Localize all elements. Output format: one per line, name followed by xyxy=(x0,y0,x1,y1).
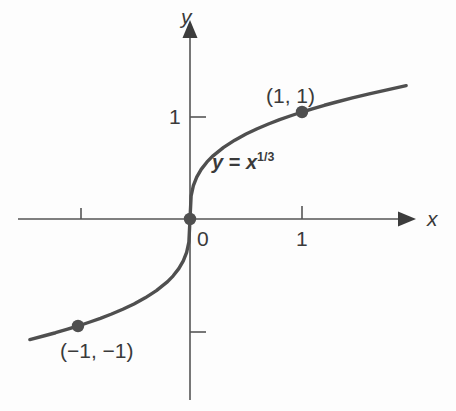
y-tick-label-one: 1 xyxy=(169,106,181,127)
point-label-one-one: (1, 1) xyxy=(266,85,315,106)
x-axis-label: x xyxy=(427,208,438,229)
origin-label-zero: 0 xyxy=(197,228,209,249)
point-label-neg-one-neg-one: (−1, −1) xyxy=(60,340,134,361)
point-marker-one-one xyxy=(296,106,308,118)
x-tick-label-one: 1 xyxy=(296,228,308,249)
equation-label: y = x1/3 xyxy=(212,152,274,172)
equation-lhs: y xyxy=(212,151,223,173)
equation-base: x xyxy=(246,151,257,173)
equation-operator: = xyxy=(229,151,241,173)
point-marker-origin xyxy=(184,213,196,225)
equation-exponent: 1/3 xyxy=(257,150,274,164)
right-arrowhead-icon xyxy=(398,212,416,227)
cube-root-curve xyxy=(30,86,406,340)
point-marker-neg-one-neg-one xyxy=(72,320,84,332)
y-axis-label: y xyxy=(181,6,192,27)
graph-figure: y x 1 0 1 (1, 1) (−1, −1) y = x1/3 xyxy=(0,0,456,411)
